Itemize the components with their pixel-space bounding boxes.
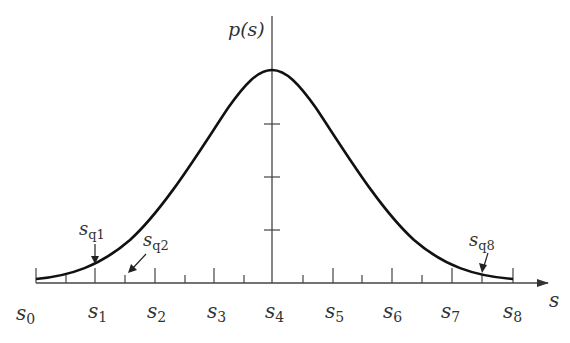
x-axis-label: s (549, 288, 559, 312)
y-axis-label-text: p(s) (228, 18, 265, 40)
tick-label-s6-sub: 6 (393, 309, 402, 325)
tick-label-s1-base: s (88, 299, 98, 323)
tick-label-s4-base: s (265, 299, 275, 323)
sq1-sub: q1 (88, 227, 105, 242)
svg-text:s1: s1 (88, 299, 107, 325)
tick-label-s3-base: s (207, 299, 217, 323)
svg-text:s0: s0 (16, 301, 35, 327)
svg-text:s8: s8 (503, 299, 522, 325)
annotation-sq8: sq8 (469, 229, 495, 273)
sq8-sub: q8 (478, 238, 495, 253)
svg-text:s2: s2 (147, 299, 166, 325)
tick-label-s5-sub: 5 (335, 309, 344, 325)
x-tick-labels: s0 s1 s2 s3 s4 s5 s6 s7 s8 (16, 299, 522, 327)
svg-text:sq2: sq2 (143, 229, 169, 253)
y-axis-label: p(s) (228, 18, 265, 40)
tick-label-s2-sub: 2 (157, 309, 166, 325)
gaussian-pdf-diagram: p(s) s s0 s1 s2 s3 s4 s5 s6 s7 s8 sq1 sq… (0, 0, 570, 343)
tick-label-s0-sub: 0 (26, 311, 35, 327)
tick-label-s4-sub: 4 (275, 309, 284, 325)
svg-text:s6: s6 (383, 299, 402, 325)
svg-text:s7: s7 (441, 299, 460, 325)
pdf-curve (36, 70, 513, 279)
svg-text:sq1: sq1 (79, 218, 105, 242)
tick-label-s7-sub: 7 (451, 309, 460, 325)
major-ticks (36, 268, 513, 283)
minor-ticks (66, 275, 482, 283)
svg-text:s5: s5 (325, 299, 344, 325)
sq8-base: s (469, 229, 478, 250)
sq2-base: s (143, 229, 152, 250)
tick-label-s0-base: s (16, 301, 26, 325)
svg-text:s4: s4 (265, 299, 284, 325)
tick-label-s7-base: s (441, 299, 451, 323)
tick-label-s6-base: s (383, 299, 393, 323)
svg-text:s3: s3 (207, 299, 226, 325)
y-axis (264, 16, 280, 283)
tick-label-s5-base: s (325, 299, 335, 323)
annotation-sq1: sq1 (79, 218, 105, 264)
tick-label-s8-sub: 8 (513, 309, 522, 325)
sq2-sub: q2 (152, 238, 169, 253)
tick-label-s2-base: s (147, 299, 157, 323)
tick-label-s3-sub: 3 (217, 309, 226, 325)
arrow-icon (479, 263, 487, 273)
sq1-base: s (79, 218, 88, 239)
tick-label-s1-sub: 1 (98, 309, 107, 325)
tick-label-s8-base: s (503, 299, 513, 323)
svg-text:sq8: sq8 (469, 229, 495, 253)
